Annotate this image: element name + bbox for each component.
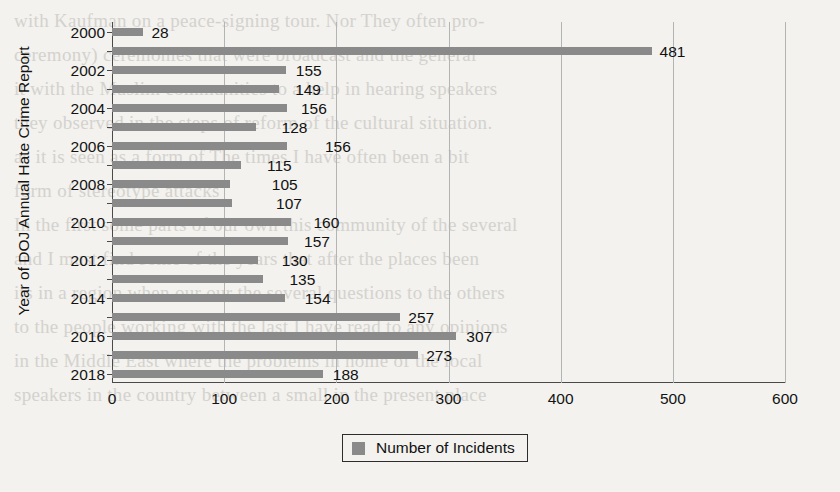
bar bbox=[112, 275, 263, 283]
bar-chart: Year of DOJ Annual Hate Crime Report 284… bbox=[0, 0, 840, 492]
bar-value-label: 156 bbox=[301, 101, 327, 117]
bar-value-label: 154 bbox=[305, 291, 331, 307]
x-axis-tick-label: 0 bbox=[108, 390, 117, 408]
y-axis-tick-label: 2018 bbox=[71, 367, 105, 383]
bar bbox=[112, 294, 285, 302]
bar bbox=[112, 47, 652, 55]
y-axis-tick-mark bbox=[107, 222, 112, 223]
bar-value-label: 257 bbox=[408, 310, 434, 326]
bar bbox=[112, 237, 288, 245]
bar-value-label: 149 bbox=[295, 82, 321, 98]
bar bbox=[112, 180, 230, 188]
y-axis-tick-mark bbox=[107, 165, 112, 166]
gridline bbox=[561, 22, 562, 383]
x-axis-tick-label: 600 bbox=[772, 390, 798, 408]
y-axis-tick-mark bbox=[107, 241, 112, 242]
y-axis-tick-mark bbox=[107, 51, 112, 52]
gridline bbox=[785, 22, 786, 383]
y-axis-tick-mark bbox=[107, 203, 112, 204]
bar-value-label: 160 bbox=[313, 215, 339, 231]
y-axis-tick-mark bbox=[107, 317, 112, 318]
bar bbox=[112, 85, 279, 93]
bar bbox=[112, 161, 241, 169]
y-axis-tick-mark bbox=[107, 279, 112, 280]
y-axis-tick-label: 2012 bbox=[71, 253, 105, 269]
bar bbox=[112, 351, 418, 359]
gridline bbox=[449, 22, 450, 383]
y-axis-tick-mark bbox=[107, 146, 112, 147]
bar bbox=[112, 370, 323, 378]
y-axis-tick-label: 2014 bbox=[71, 291, 105, 307]
y-axis-tick-label: 2016 bbox=[71, 329, 105, 345]
bar-value-label: 156 bbox=[325, 139, 351, 155]
x-axis-tick-label: 300 bbox=[436, 390, 462, 408]
bar bbox=[112, 199, 232, 207]
y-axis-tick-label: 2006 bbox=[71, 139, 105, 155]
bar-value-label: 130 bbox=[282, 253, 308, 269]
y-axis-tick-mark bbox=[107, 355, 112, 356]
y-axis-tick-mark bbox=[107, 108, 112, 109]
y-axis-tick-label: 2008 bbox=[71, 177, 105, 193]
chart-legend: Number of Incidents bbox=[342, 434, 528, 462]
y-axis-tick-mark bbox=[107, 298, 112, 299]
x-axis-tick-label: 500 bbox=[660, 390, 686, 408]
y-axis-tick-label: 2010 bbox=[71, 215, 105, 231]
gridline bbox=[336, 22, 337, 383]
y-axis-tick-mark bbox=[107, 184, 112, 185]
plot-area: 2848115514915612815611510510716015713013… bbox=[112, 22, 785, 383]
y-axis-title: Year of DOJ Annual Hate Crime Report bbox=[15, 11, 33, 351]
y-axis-tick-mark bbox=[107, 70, 112, 71]
y-axis-tick-mark bbox=[107, 127, 112, 128]
bar-value-label: 28 bbox=[151, 25, 168, 41]
y-axis-tick-label: 2004 bbox=[71, 101, 105, 117]
bar bbox=[112, 104, 287, 112]
bar-value-label: 115 bbox=[267, 158, 292, 174]
bar-value-label: 188 bbox=[333, 367, 359, 383]
x-axis-tick-label: 200 bbox=[323, 390, 349, 408]
bar bbox=[112, 313, 400, 321]
legend-swatch-icon bbox=[352, 442, 365, 455]
bar-value-label: 128 bbox=[282, 120, 308, 136]
bar bbox=[112, 332, 456, 340]
bar-value-label: 107 bbox=[276, 196, 302, 212]
bar bbox=[112, 256, 258, 264]
bar-value-label: 157 bbox=[304, 234, 330, 250]
x-axis-tick-label: 100 bbox=[211, 390, 237, 408]
bar bbox=[112, 142, 287, 150]
y-axis-tick-mark bbox=[107, 260, 112, 261]
bar-value-label: 105 bbox=[272, 177, 298, 193]
bar bbox=[112, 28, 143, 36]
x-axis-tick-label: 400 bbox=[548, 390, 574, 408]
y-axis-tick-label: 2000 bbox=[71, 25, 105, 41]
y-axis-tick-label: 2002 bbox=[71, 63, 105, 79]
bar-value-label: 155 bbox=[296, 63, 322, 79]
bar-value-label: 481 bbox=[660, 44, 686, 60]
y-axis-tick-mark bbox=[107, 89, 112, 90]
y-axis-tick-mark bbox=[107, 336, 112, 337]
bar-value-label: 307 bbox=[466, 329, 492, 345]
bar bbox=[112, 66, 286, 74]
bar-value-label: 273 bbox=[426, 348, 452, 364]
bar-value-label: 135 bbox=[289, 272, 315, 288]
legend-label: Number of Incidents bbox=[376, 439, 515, 457]
bar bbox=[112, 218, 291, 226]
bar bbox=[112, 123, 256, 131]
gridline bbox=[673, 22, 674, 383]
y-axis-tick-mark bbox=[107, 32, 112, 33]
y-axis-tick-mark bbox=[107, 374, 112, 375]
